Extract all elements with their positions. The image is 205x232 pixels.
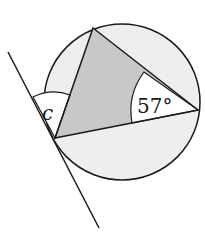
circle-theorem-diagram: c 57° — [0, 0, 205, 232]
angle-c-label: c — [42, 101, 53, 125]
angle-57-label: 57° — [137, 94, 172, 118]
